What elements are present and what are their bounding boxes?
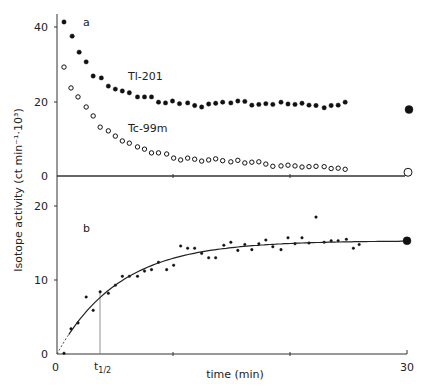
tc99m-series	[62, 65, 348, 172]
data-point	[322, 106, 326, 110]
tl201-series	[62, 20, 348, 110]
data-point	[84, 105, 88, 109]
data-point	[329, 166, 333, 170]
data-point	[257, 102, 261, 106]
data-point	[243, 99, 247, 103]
data-point	[170, 99, 174, 103]
data-point	[251, 248, 254, 251]
data-point	[230, 241, 233, 244]
data-point	[352, 247, 355, 250]
data-point	[293, 102, 297, 106]
data-point	[229, 101, 233, 105]
data-point	[69, 86, 73, 90]
tl201-annotation: Tl-201	[127, 70, 163, 83]
data-point	[358, 243, 361, 246]
data-point	[199, 105, 203, 109]
data-point	[120, 139, 124, 143]
data-point	[286, 163, 290, 167]
ytick-b-10: 10	[34, 274, 48, 287]
ytick-b-0: 0	[41, 348, 48, 361]
xtick-0: 0	[52, 361, 59, 374]
data-point	[85, 296, 88, 299]
axes	[54, 14, 407, 356]
data-point	[307, 103, 311, 107]
end-markers	[403, 106, 413, 245]
data-point	[271, 164, 275, 168]
data-point	[178, 158, 182, 162]
data-point	[163, 101, 167, 105]
data-point	[345, 238, 348, 241]
data-point	[300, 165, 304, 169]
data-point	[192, 157, 196, 161]
data-point	[322, 164, 326, 168]
data-point	[257, 160, 261, 164]
data-point	[185, 156, 189, 160]
fit-curve-extrapolation	[57, 335, 69, 354]
data-point	[142, 95, 146, 99]
data-point	[62, 20, 66, 24]
data-point	[343, 100, 347, 104]
data-point	[107, 292, 110, 295]
data-point	[92, 309, 95, 312]
data-point	[307, 164, 311, 168]
data-point	[314, 103, 318, 107]
data-point	[136, 275, 139, 278]
tc99m-annotation: Tc-99m	[127, 122, 168, 135]
data-point	[135, 95, 139, 99]
data-point	[149, 95, 153, 99]
data-point	[192, 103, 196, 107]
data-point	[150, 268, 153, 271]
data-point	[62, 65, 66, 69]
data-point	[113, 87, 117, 91]
data-point	[336, 103, 340, 107]
data-point	[179, 245, 182, 248]
data-point	[63, 352, 66, 355]
data-point	[77, 50, 81, 54]
x-tick-labels: 0 t1/2 30 time (min)	[52, 360, 414, 381]
data-point	[220, 159, 224, 163]
data-point	[314, 164, 318, 168]
data-point	[106, 129, 110, 133]
data-point	[237, 249, 240, 252]
data-point	[142, 147, 146, 151]
panel-b-points	[63, 216, 361, 355]
data-point	[172, 264, 175, 267]
data-point	[280, 248, 283, 251]
xtick-thalf: t1/2	[94, 360, 111, 375]
data-point	[214, 257, 217, 260]
data-point	[99, 76, 103, 80]
data-point	[149, 151, 153, 155]
data-point	[199, 159, 203, 163]
data-point	[250, 160, 254, 164]
data-point	[236, 99, 240, 103]
data-point	[272, 245, 275, 248]
data-point	[264, 101, 268, 105]
data-point	[343, 167, 347, 171]
xtick-30: 30	[400, 361, 414, 374]
ytick-b-20: 20	[34, 200, 48, 213]
data-point	[301, 237, 304, 240]
data-point	[250, 103, 254, 107]
data-point	[206, 102, 210, 106]
data-point	[186, 247, 189, 250]
data-point	[243, 161, 247, 165]
tc99m-end-marker	[404, 168, 412, 176]
panel-a-label: a	[83, 16, 90, 29]
isotope-activity-figure: 40 20 0 20 10 0 0 t1/2 30 time (min) Iso…	[0, 0, 423, 388]
data-point	[213, 157, 217, 161]
data-point	[91, 114, 95, 118]
data-point	[300, 101, 304, 105]
data-point	[135, 145, 139, 149]
data-point	[223, 244, 226, 247]
data-point	[206, 158, 210, 162]
data-point	[329, 103, 333, 107]
data-point	[113, 134, 117, 138]
data-point	[336, 166, 340, 170]
data-point	[70, 34, 74, 38]
data-point	[171, 156, 175, 160]
data-point	[84, 60, 88, 64]
data-point	[120, 89, 124, 93]
data-point	[156, 151, 160, 155]
data-point	[98, 125, 102, 129]
data-point	[207, 257, 210, 260]
